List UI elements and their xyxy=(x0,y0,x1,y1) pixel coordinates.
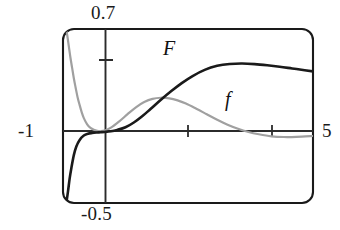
y-axis-min-label: -0.5 xyxy=(81,204,112,223)
x-axis-max-label: 5 xyxy=(322,121,332,140)
curve-F-path xyxy=(66,64,313,203)
curve-label-f: f xyxy=(225,89,231,109)
y-axis-max-label: 0.7 xyxy=(91,3,115,22)
plot-frame xyxy=(63,29,313,203)
curve-label-F: F xyxy=(163,38,175,58)
function-plot-figure: 0.7 -1 5 -0.5 F f xyxy=(0,0,340,230)
plot-canvas xyxy=(0,0,340,230)
curve-f-path xyxy=(66,29,313,137)
x-axis-min-label: -1 xyxy=(18,121,34,140)
